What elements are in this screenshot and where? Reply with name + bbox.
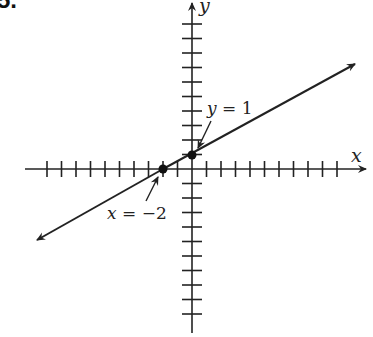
y-axis-label: y — [199, 0, 210, 16]
graph-figure: 5. y x y = 1 x = −2 — [0, 0, 373, 337]
x-intercept-label: x = −2 — [107, 203, 167, 223]
y-intercept-point — [188, 151, 197, 160]
y-intercept-label: y = 1 — [207, 98, 252, 118]
x-intercept-pointer — [146, 177, 158, 201]
x-intercept-point — [159, 165, 168, 174]
coordinate-plane — [0, 0, 373, 337]
x-axis-label: x — [351, 144, 362, 166]
